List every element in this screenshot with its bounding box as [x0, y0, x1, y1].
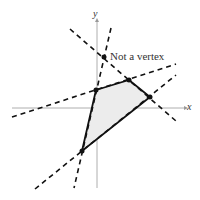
x-axis-label: x: [187, 101, 191, 112]
annotation-label: Not a vertex: [110, 50, 164, 62]
y-axis-label: y: [93, 8, 97, 19]
diagram: Not a vertex x y: [0, 0, 200, 200]
not-vertex-point: [102, 55, 107, 60]
feasible-region-plot: [0, 0, 200, 200]
